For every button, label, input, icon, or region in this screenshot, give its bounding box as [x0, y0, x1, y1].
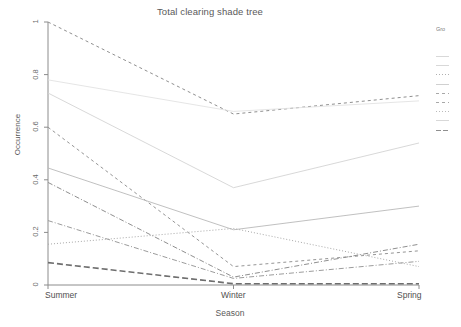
series-line [48, 80, 419, 112]
y-tick-label: 0.8 [31, 63, 40, 85]
series-line [48, 127, 419, 266]
legend-swatch [436, 111, 449, 112]
legend-item[interactable] [436, 61, 461, 70]
legend-swatch [436, 120, 449, 121]
y-tick-label: 0.2 [31, 221, 40, 243]
legend-swatch [436, 84, 449, 85]
legend-title: Gro [436, 26, 461, 33]
legend[interactable]: Gro [436, 26, 461, 144]
legend-swatch [436, 56, 449, 57]
x-tick-label: Spring [397, 290, 422, 300]
series-line [48, 22, 419, 114]
plot-area [0, 0, 461, 327]
x-tick-label: Winter [221, 290, 246, 300]
series-line [48, 228, 419, 266]
legend-item[interactable] [436, 116, 461, 125]
series-line [48, 93, 419, 188]
legend-item[interactable] [436, 107, 461, 116]
y-tick-label: 0.6 [31, 116, 40, 138]
series-line [48, 263, 419, 284]
legend-swatch [436, 65, 449, 66]
y-tick-label: 0.4 [31, 168, 40, 190]
legend-item[interactable] [436, 126, 461, 135]
x-tick-label: Summer [45, 290, 77, 300]
legend-swatch [436, 74, 449, 75]
y-tick-label: 0 [31, 274, 40, 296]
y-tick-label: 1 [31, 11, 40, 33]
legend-swatch [436, 102, 449, 103]
chart-canvas: Total clearing shade tree Occurrence Sea… [0, 0, 461, 327]
legend-item[interactable] [436, 80, 461, 89]
legend-item[interactable] [436, 70, 461, 79]
legend-swatch [436, 130, 449, 131]
legend-swatch [436, 93, 449, 94]
legend-item[interactable] [436, 98, 461, 107]
series-line [48, 168, 419, 230]
legend-item[interactable] [436, 89, 461, 98]
legend-item[interactable] [436, 52, 461, 61]
legend-entry-list [436, 52, 461, 135]
